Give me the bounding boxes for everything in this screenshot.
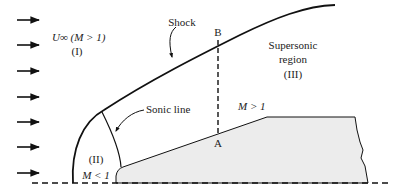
freestream-arrows xyxy=(17,20,39,173)
shock-label: Shock xyxy=(168,16,196,28)
mach-gt-1-label: M > 1 xyxy=(237,100,266,112)
region-1-label: (I) xyxy=(72,45,83,58)
region-3-label: (III) xyxy=(284,68,303,81)
point-a-label: A xyxy=(214,137,222,149)
supersonic-label-line1: Supersonic xyxy=(269,39,318,51)
supersonic-label-line2: region xyxy=(279,53,308,65)
shock-pointer-arrow xyxy=(170,27,176,57)
freestream-label: U∞ (M > 1) xyxy=(52,31,106,44)
point-b-label: B xyxy=(214,26,221,38)
region-2-label: (II) xyxy=(89,153,104,166)
sonic-line-label: Sonic line xyxy=(146,103,190,115)
mach-lt-1-label: M < 1 xyxy=(81,169,110,181)
blunt-body xyxy=(116,117,368,183)
sonic-line xyxy=(102,112,121,167)
flow-diagram: U∞ (M > 1) (I) Shock B A Supersonic regi… xyxy=(0,0,405,193)
sonic-line-pointer-arrow xyxy=(116,110,144,131)
